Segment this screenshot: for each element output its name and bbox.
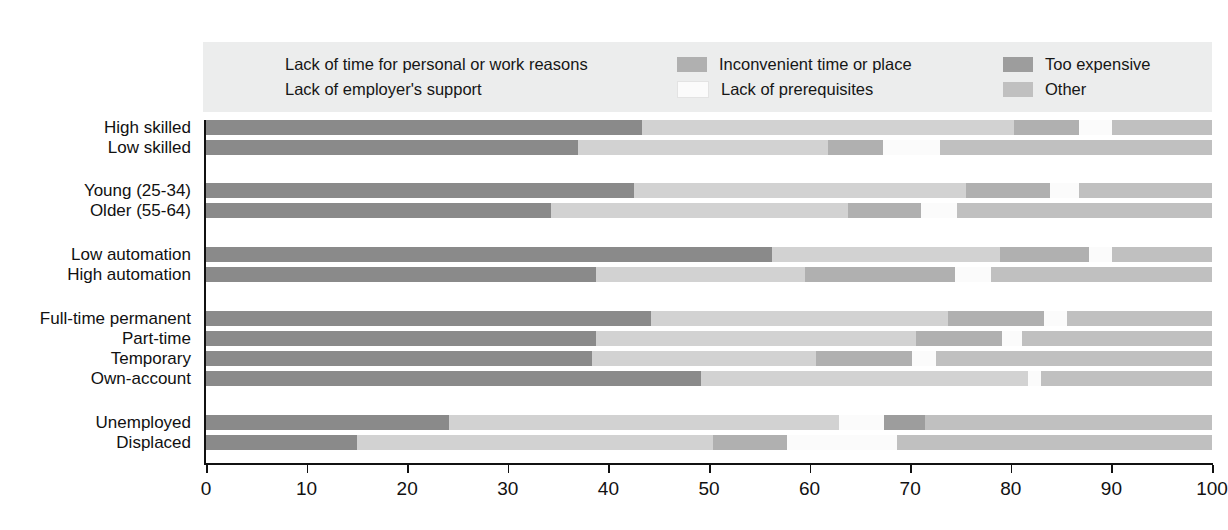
legend-swatch-lack-of-time xyxy=(243,57,273,72)
legend-entry-inconvenient-time-or-place: Inconvenient time or place xyxy=(677,52,912,77)
x-tick-10 xyxy=(307,465,309,473)
bar-segment xyxy=(883,140,940,155)
x-tick-label-70: 70 xyxy=(900,478,921,500)
bar-segment xyxy=(1089,247,1112,262)
bar-segment xyxy=(955,267,990,282)
bar-segment xyxy=(206,331,596,346)
x-tick-50 xyxy=(709,465,711,473)
category-label-own-account: Own-account xyxy=(91,371,191,386)
bar-segment xyxy=(957,203,1212,218)
category-label-part-time: Part-time xyxy=(122,331,191,346)
bar-segment xyxy=(592,351,815,366)
bar-segment xyxy=(936,351,1212,366)
bar-segment xyxy=(551,203,848,218)
bar-segment xyxy=(596,331,916,346)
y-axis-line xyxy=(204,120,206,465)
category-label-high-skilled: High skilled xyxy=(104,120,191,135)
legend-label-too-expensive: Too expensive xyxy=(1045,56,1151,73)
bar-segment xyxy=(828,140,883,155)
category-label-temporary: Temporary xyxy=(111,351,191,366)
bar-segment xyxy=(1028,371,1041,386)
bar-segment xyxy=(921,203,957,218)
bar-segment xyxy=(206,415,449,430)
bar-segment xyxy=(816,351,913,366)
legend-column-2: Inconvenient time or place Lack of prere… xyxy=(677,52,912,102)
x-tick-40 xyxy=(608,465,610,473)
bar-segment xyxy=(206,351,592,366)
x-tick-90 xyxy=(1111,465,1113,473)
bar-segment xyxy=(713,435,787,450)
bar-segment xyxy=(925,415,1212,430)
bar-segment xyxy=(449,415,838,430)
bar-segment xyxy=(206,267,596,282)
category-label-full-time-permanent: Full-time permanent xyxy=(40,311,191,326)
bar-segment xyxy=(912,351,936,366)
x-tick-label-0: 0 xyxy=(201,478,212,500)
bar-segment xyxy=(1112,247,1212,262)
chart-legend: Lack of time for personal or work reason… xyxy=(203,42,1212,112)
x-tick-label-90: 90 xyxy=(1101,478,1122,500)
bar-segment xyxy=(206,247,772,262)
bar-row xyxy=(206,371,1212,386)
bar-segment xyxy=(206,140,578,155)
x-tick-label-30: 30 xyxy=(497,478,518,500)
legend-entry-lack-of-time: Lack of time for personal or work reason… xyxy=(243,52,588,77)
legend-column-3: Too expensive Other xyxy=(1003,52,1151,102)
bar-row xyxy=(206,267,1212,282)
bar-row xyxy=(206,351,1212,366)
x-tick-60 xyxy=(810,465,812,473)
category-label-low-skilled: Low skilled xyxy=(108,140,191,155)
legend-swatch-lack-of-prerequisites xyxy=(677,81,709,98)
legend-entry-too-expensive: Too expensive xyxy=(1003,52,1151,77)
bar-segment xyxy=(848,203,921,218)
bar-segment xyxy=(1022,331,1212,346)
legend-entry-lack-of-employers-support: Lack of employer's support xyxy=(243,77,588,102)
bar-segment xyxy=(206,183,634,198)
category-label-high-automation: High automation xyxy=(67,267,191,282)
x-tick-label-20: 20 xyxy=(397,478,418,500)
bar-segment xyxy=(206,120,642,135)
bar-segment xyxy=(772,247,999,262)
legend-column-1: Lack of time for personal or work reason… xyxy=(243,52,588,102)
x-tick-20 xyxy=(407,465,409,473)
category-label-low-automation: Low automation xyxy=(71,247,191,262)
x-tick-100 xyxy=(1212,465,1214,473)
legend-label-lack-of-prerequisites: Lack of prerequisites xyxy=(721,81,873,98)
legend-swatch-inconvenient-time-or-place xyxy=(677,57,707,72)
x-tick-label-50: 50 xyxy=(698,478,719,500)
bar-row xyxy=(206,331,1212,346)
bar-segment xyxy=(642,120,1014,135)
bar-row xyxy=(206,435,1212,450)
bar-segment xyxy=(206,203,551,218)
x-tick-label-40: 40 xyxy=(598,478,619,500)
bar-segment xyxy=(948,311,1044,326)
legend-label-lack-of-time: Lack of time for personal or work reason… xyxy=(285,56,588,73)
bar-segment xyxy=(206,311,651,326)
bar-row xyxy=(206,183,1212,198)
bar-row xyxy=(206,311,1212,326)
x-tick-80 xyxy=(1011,465,1013,473)
x-tick-0 xyxy=(206,465,208,473)
bar-row xyxy=(206,415,1212,430)
bar-segment xyxy=(1002,331,1022,346)
bar-segment xyxy=(701,371,1028,386)
bar-segment xyxy=(1079,183,1212,198)
legend-swatch-lack-of-employers-support xyxy=(243,82,273,97)
bar-segment xyxy=(634,183,966,198)
category-label-unemployed: Unemployed xyxy=(96,415,191,430)
legend-label-other: Other xyxy=(1045,81,1086,98)
bar-segment xyxy=(966,183,1051,198)
bar-segment xyxy=(1000,247,1090,262)
legend-entry-lack-of-prerequisites: Lack of prerequisites xyxy=(677,77,912,102)
legend-label-lack-of-employers-support: Lack of employer's support xyxy=(285,81,482,98)
legend-entry-other: Other xyxy=(1003,77,1151,102)
bar-segment xyxy=(1044,311,1067,326)
bar-row xyxy=(206,247,1212,262)
bar-segment xyxy=(578,140,827,155)
category-label-young-25-34: Young (25-34) xyxy=(84,183,191,198)
bar-segment xyxy=(805,267,956,282)
bar-segment xyxy=(1014,120,1079,135)
bar-segment xyxy=(596,267,804,282)
bar-segment xyxy=(206,371,701,386)
